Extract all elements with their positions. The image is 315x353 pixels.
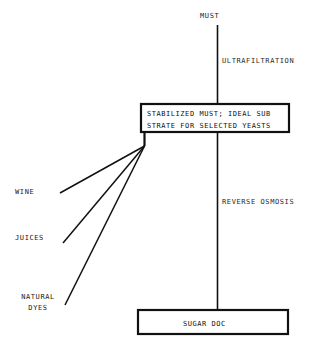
natural-dyes-input-label: NATURAL DYES — [15, 292, 61, 314]
wine-feed-line — [60, 146, 145, 193]
must-input-label: MUST — [200, 11, 219, 22]
wine-input-label: WINE — [15, 187, 34, 198]
juices-input-label: JUICES — [15, 233, 44, 244]
sugar-doc-box-label: SUGAR DOC — [183, 318, 226, 330]
process-flow-diagram: MUST ULTRAFILTRATION REVERSE OSMOSIS STA… — [0, 0, 315, 353]
ultrafiltration-process-label: ULTRAFILTRATION — [222, 57, 294, 65]
reverse-osmosis-process-label: REVERSE OSMOSIS — [222, 198, 294, 206]
stabilized-must-box-label: STABILIZED MUST; IDEAL SUB STRATE FOR SE… — [147, 108, 271, 132]
